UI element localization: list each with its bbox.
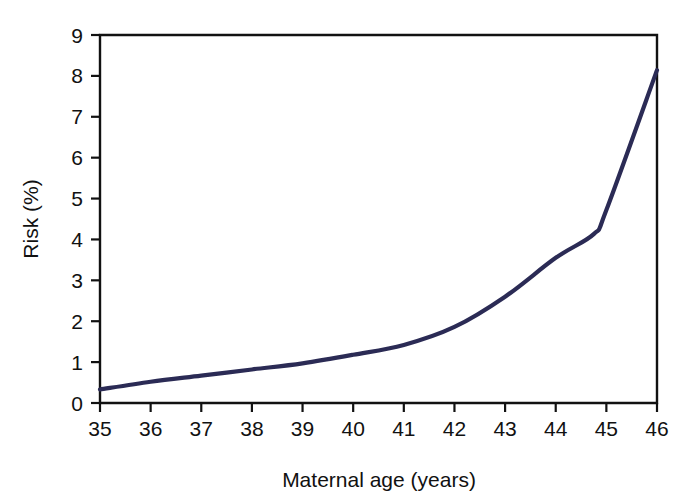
x-tick-label: 35 bbox=[88, 417, 111, 440]
y-axis-title: Risk (%) bbox=[19, 179, 42, 258]
x-tick-label: 38 bbox=[240, 417, 263, 440]
x-tick-label: 40 bbox=[342, 417, 365, 440]
y-tick-label: 6 bbox=[71, 146, 83, 169]
x-tick-label: 46 bbox=[645, 417, 668, 440]
chart-container: 0123456789 353637383940414243444546 Risk… bbox=[0, 0, 694, 501]
x-tick-label: 41 bbox=[392, 417, 415, 440]
y-tick-label: 4 bbox=[71, 228, 83, 251]
y-tick-label: 1 bbox=[71, 351, 83, 374]
x-tick-label: 37 bbox=[190, 417, 213, 440]
x-tick-label: 45 bbox=[595, 417, 618, 440]
x-tick-label: 36 bbox=[139, 417, 162, 440]
y-tick-label: 9 bbox=[71, 24, 83, 47]
x-tick-label: 43 bbox=[493, 417, 516, 440]
line-chart: 0123456789 353637383940414243444546 Risk… bbox=[0, 0, 694, 501]
y-tick-label: 5 bbox=[71, 187, 83, 210]
y-tick-label: 3 bbox=[71, 269, 83, 292]
x-axis-title: Maternal age (years) bbox=[282, 468, 476, 491]
y-tick-label: 7 bbox=[71, 105, 83, 128]
x-tick-label: 44 bbox=[544, 417, 568, 440]
x-tick-label: 39 bbox=[291, 417, 314, 440]
y-tick-label: 2 bbox=[71, 310, 83, 333]
x-tick-label: 42 bbox=[443, 417, 466, 440]
y-tick-label: 0 bbox=[71, 392, 83, 415]
y-tick-label: 8 bbox=[71, 64, 83, 87]
